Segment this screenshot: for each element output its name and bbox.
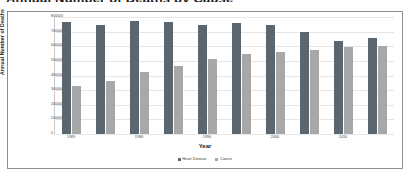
x-axis-tick-label: 2010 [326, 136, 360, 140]
y-axis-tick-label: 300000 [51, 88, 53, 92]
bar-heart-disease [368, 38, 377, 134]
legend-item[interactable]: Heart Disease [178, 157, 207, 161]
chart-legend: Heart DiseaseCancer [8, 157, 402, 161]
legend-item[interactable]: Cancer [215, 157, 232, 161]
bar-cancer [378, 46, 387, 134]
chart-title: Annual Number of Deaths by Cause [6, 0, 233, 2]
bar-cancer [242, 54, 251, 134]
bar-heart-disease [96, 25, 105, 134]
bar-group [122, 17, 156, 134]
x-axis-title: Year [8, 143, 402, 149]
bar-group [88, 17, 122, 134]
bar-groups [54, 17, 394, 134]
bar-heart-disease [164, 22, 173, 134]
bar-cancer [276, 52, 285, 134]
bar-cancer [344, 47, 353, 134]
bar-cancer [72, 86, 81, 134]
bar-heart-disease [62, 22, 71, 134]
bar-heart-disease [198, 25, 207, 134]
bar-group [292, 17, 326, 134]
bar-cancer [140, 72, 149, 134]
bar-group [360, 17, 394, 134]
bar-group [224, 17, 258, 134]
bar-group [326, 17, 360, 134]
x-axis-tick-label: 1990 [190, 136, 224, 140]
legend-swatch-icon [178, 158, 181, 161]
y-axis-tick-label: 700000 [51, 30, 53, 34]
bar-cancer [208, 59, 217, 134]
y-axis-tick-label: 100000 [51, 118, 53, 122]
x-axis-tick-label: 1969 [54, 136, 88, 140]
y-axis-tick-label: 400000 [51, 74, 53, 78]
bar-heart-disease [266, 25, 275, 134]
bar-heart-disease [334, 41, 343, 134]
bar-cancer [310, 50, 319, 134]
y-axis-tick-label: 200000 [51, 103, 53, 107]
y-axis-title: Annual Number of Deaths [0, 9, 5, 75]
x-axis-tick-label: 1980 [122, 136, 156, 140]
bar-group [54, 17, 88, 134]
bar-group [258, 17, 292, 134]
bar-group [190, 17, 224, 134]
bar-cancer [106, 81, 115, 134]
bar-heart-disease [232, 23, 241, 134]
bar-heart-disease [130, 21, 139, 134]
bar-group [156, 17, 190, 134]
legend-label: Heart Disease [182, 157, 206, 161]
legend-label: Cancer [220, 157, 232, 161]
y-axis-tick-label: 0 [51, 132, 53, 136]
y-axis-tick-label: 500000 [51, 59, 53, 63]
legend-swatch-icon [215, 158, 218, 161]
bar-heart-disease [300, 32, 309, 134]
y-axis-tick-label: 600000 [51, 44, 53, 48]
bar-cancer [174, 66, 183, 134]
y-axis-tick-label: 800000 [51, 15, 53, 19]
x-axis-tick-label: 2000 [258, 136, 292, 140]
chart-frame: Annual Number of Deaths 0100000200000300… [7, 11, 403, 169]
